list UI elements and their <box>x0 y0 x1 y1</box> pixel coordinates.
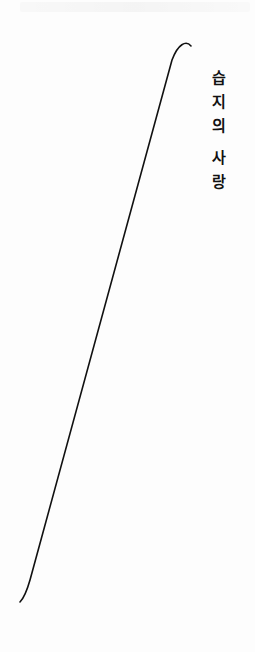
title-char: 사 <box>212 146 226 170</box>
title-char: 습 <box>212 66 226 90</box>
vertical-title: 습 지 의 사 랑 <box>209 66 229 194</box>
book-page: 습 지 의 사 랑 <box>0 0 255 652</box>
title-char: 지 <box>212 90 226 114</box>
title-char: 의 <box>212 114 226 138</box>
title-char: 랑 <box>212 170 226 194</box>
